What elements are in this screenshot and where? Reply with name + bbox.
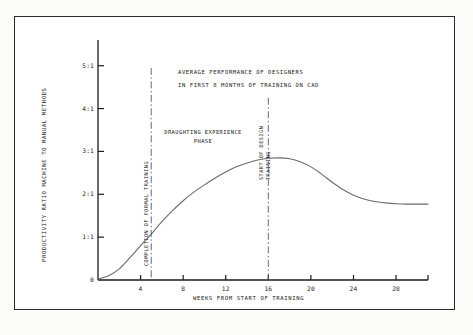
chart-subtitle: IN FIRST 8 MONTHS OF TRAINING ON CAD: [178, 81, 319, 89]
x-tick-label-12: 12: [218, 285, 234, 294]
x-axis-ticks: [141, 275, 428, 280]
y-tick-label-1-1: 1:1: [82, 233, 94, 242]
x-tick-label-24: 24: [345, 285, 361, 294]
y-tick-label-5-1: 5:1: [82, 62, 94, 71]
x-tick-label-28: 28: [388, 285, 404, 294]
y-tick-label-3-1: 3:1: [82, 147, 94, 156]
chart-page: AVERAGE PERFORMANCE OF DESIGNERS IN FIRS…: [0, 0, 473, 335]
y-tick-label-2-1: 2:1: [82, 190, 94, 199]
y-tick-label-0: 0: [82, 276, 94, 285]
x-tick-label-8: 8: [175, 285, 191, 294]
start-of-design-training-label-line2: TRAINING: [265, 151, 273, 180]
x-tick-label-16: 16: [260, 285, 276, 294]
draughting-phase-label-line1: DRAUGHTING EXPERIENCE: [160, 129, 246, 137]
x-axis-title: WEEKS FROM START OF TRAINING: [193, 294, 304, 302]
y-tick-label-4-1: 4:1: [82, 105, 94, 114]
draughting-phase-label-line2: PHASE: [160, 138, 246, 146]
completion-of-formal-training-label: COMPLETION OF FORMAL TRAINING: [143, 161, 151, 266]
y-axis-ticks: [98, 66, 104, 237]
y-axis-title: PRODUCTIVITY RATIO MACHINE TO MANUAL MET…: [40, 87, 48, 262]
x-tick-label-20: 20: [303, 285, 319, 294]
x-tick-label-4: 4: [133, 285, 149, 294]
chart-title: AVERAGE PERFORMANCE OF DESIGNERS: [178, 68, 303, 76]
